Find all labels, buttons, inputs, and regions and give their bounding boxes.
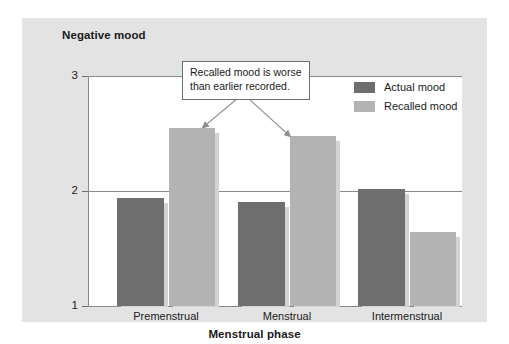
legend-item-actual-mood: Actual mood [354, 78, 457, 96]
y-tick-label-1: 1 [52, 300, 78, 312]
y-tick-mark-2 [82, 191, 88, 192]
bar-premenstrual-actual [117, 198, 164, 306]
bar-intermenstrual-recalled [410, 232, 456, 306]
legend-swatch-icon-actual [354, 82, 375, 93]
figure-panel: Negative mood 3 2 1 Premenstrual Menstru… [22, 18, 487, 322]
legend-label-recalled: Recalled mood [384, 100, 457, 112]
bar-intermenstrual-actual [358, 189, 405, 306]
legend-item-recalled-mood: Recalled mood [354, 97, 457, 115]
y-tick-mark-3 [82, 76, 88, 77]
gridline-2 [88, 191, 462, 192]
y-tick-label-3: 3 [52, 70, 78, 82]
category-label-premenstrual: Premenstrual [96, 310, 236, 322]
y-axis-title: Negative mood [62, 29, 146, 41]
category-label-menstrual: Menstrual [217, 310, 357, 322]
x-axis-title: Menstrual phase [22, 328, 487, 340]
bar-menstrual-actual [238, 202, 285, 306]
bar-premenstrual-recalled [169, 128, 215, 306]
callout-annotation: Recalled mood is worse than earlier reco… [182, 61, 310, 100]
bar-menstrual-recalled [290, 136, 336, 306]
legend-swatch-icon-recalled [354, 101, 375, 112]
y-tick-mark-1 [82, 306, 88, 307]
y-tick-label-2: 2 [52, 185, 78, 197]
legend: Actual mood Recalled mood [354, 78, 457, 116]
legend-label-actual: Actual mood [384, 81, 445, 93]
category-label-intermenstrual: Intermenstrual [337, 310, 477, 322]
